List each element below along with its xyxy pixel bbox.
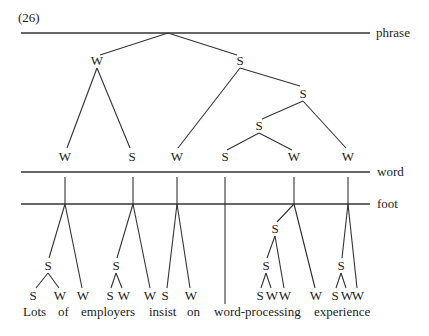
- branch: [111, 273, 116, 288]
- foot-tier-label: foot: [377, 196, 398, 211]
- branch: [341, 273, 346, 288]
- word-node-experience: W: [342, 149, 355, 164]
- branch: [294, 204, 315, 288]
- leaf-s: S: [256, 288, 263, 303]
- branch: [277, 204, 294, 222]
- node-s: S: [236, 53, 243, 68]
- node-s: S: [299, 86, 306, 101]
- branch: [303, 101, 346, 148]
- branch: [348, 204, 357, 288]
- leaf-w: W: [185, 288, 198, 303]
- foot-node-s: S: [112, 258, 119, 273]
- metrical-tree-diagram: (26) phrase word foot W S S S W S W S W …: [0, 0, 429, 336]
- node-w: W: [91, 53, 104, 68]
- word-node-insist-on: W: [171, 149, 184, 164]
- branch: [177, 204, 190, 288]
- word-word-processing: word-processing: [214, 304, 301, 319]
- leaf-s: S: [331, 288, 338, 303]
- example-number: (26): [18, 10, 40, 25]
- word-insist: insist: [149, 304, 177, 319]
- leaf-w: W: [279, 288, 292, 303]
- branch: [262, 101, 303, 119]
- branch: [227, 133, 259, 150]
- leaf-s: S: [106, 288, 113, 303]
- branch: [49, 204, 65, 258]
- branch: [168, 33, 237, 55]
- branch: [167, 204, 177, 288]
- leaf-w: W: [54, 288, 67, 303]
- leaf-s: S: [29, 288, 36, 303]
- word-node-lots-of: W: [59, 149, 72, 164]
- branch: [178, 68, 240, 148]
- word-node-employers: S: [128, 149, 135, 164]
- foot-node-s: S: [44, 258, 51, 273]
- branch: [259, 133, 292, 150]
- phrase-tier-label: phrase: [376, 25, 410, 40]
- branch: [65, 204, 82, 288]
- branch: [336, 273, 341, 288]
- branch: [261, 273, 266, 288]
- branch: [342, 204, 348, 258]
- branch: [275, 236, 284, 288]
- foot-node-s: S: [337, 258, 344, 273]
- branch: [67, 68, 97, 148]
- node-s: S: [255, 118, 262, 133]
- leaf-w: W: [266, 288, 279, 303]
- foot-node-s: S: [271, 221, 278, 236]
- leaf-w: W: [352, 288, 365, 303]
- word-of: of: [58, 304, 70, 319]
- branch: [267, 236, 275, 258]
- branch: [48, 273, 59, 288]
- foot-node-s: S: [262, 258, 269, 273]
- word-employers: employers: [81, 304, 135, 319]
- branch: [240, 68, 300, 86]
- branch: [97, 68, 130, 148]
- branch: [36, 273, 48, 288]
- leaf-s: S: [161, 288, 168, 303]
- branch: [100, 33, 168, 55]
- branch: [133, 204, 150, 288]
- word-on: on: [187, 304, 201, 319]
- leaf-w: W: [310, 288, 323, 303]
- word-lots: Lots: [23, 304, 46, 319]
- leaf-w: W: [77, 288, 90, 303]
- word-experience: experience: [314, 304, 371, 319]
- word-node-word-processing-2: W: [288, 149, 301, 164]
- word-node-word-processing-1: S: [221, 149, 228, 164]
- branch: [117, 204, 133, 258]
- branch: [266, 273, 271, 288]
- leaf-w: W: [118, 288, 131, 303]
- word-tier-label: word: [377, 164, 404, 179]
- leaf-w: W: [144, 288, 157, 303]
- branch: [116, 273, 122, 288]
